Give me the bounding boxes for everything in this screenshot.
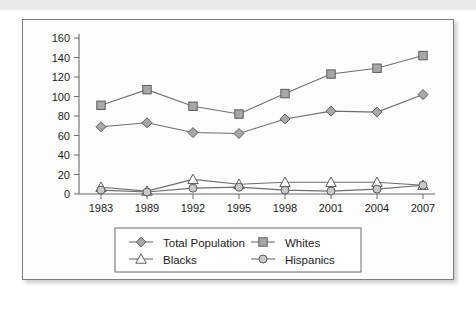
y-tick-label: 0 (64, 188, 70, 200)
square-marker (189, 102, 197, 110)
circle-marker (97, 186, 105, 194)
diamond-marker (326, 106, 336, 116)
diamond-marker (372, 107, 382, 117)
diamond-marker (142, 118, 152, 128)
y-tick-label: 160 (52, 32, 70, 44)
legend-item-label: Whites (285, 237, 320, 249)
line-chart: 0204060801001201401601983198919921995199… (23, 20, 453, 279)
x-tick-label: 2007 (411, 202, 435, 214)
circle-marker (235, 183, 243, 191)
y-tick-label: 40 (58, 149, 70, 161)
square-marker (419, 51, 427, 59)
series-total-population (96, 90, 428, 139)
chart-plot-area: 0204060801001201401601983198919921995199… (23, 20, 453, 279)
circle-marker (419, 181, 427, 189)
x-tick-label: 2001 (319, 202, 343, 214)
x-tick-group: 19831989199219951998200120042007 (89, 194, 435, 214)
y-tick-label: 120 (52, 71, 70, 83)
legend-item-whites[interactable]: Whites (251, 237, 320, 249)
square-marker (327, 70, 335, 78)
x-tick-label: 1995 (227, 202, 251, 214)
circle-marker (327, 187, 335, 195)
square-marker (235, 110, 243, 118)
circle-marker (281, 186, 289, 194)
diamond-marker (418, 90, 428, 100)
triangle-marker (188, 174, 198, 183)
x-tick-label: 1989 (135, 202, 159, 214)
y-tick-group: 020406080100120140160 (52, 32, 79, 200)
diamond-marker (188, 128, 198, 138)
y-tick-label: 60 (58, 130, 70, 142)
page-top-band-edge (0, 9, 476, 11)
circle-marker (189, 184, 197, 192)
x-tick-label: 1992 (181, 202, 205, 214)
x-tick-label: 1983 (89, 202, 113, 214)
y-tick-label: 80 (58, 110, 70, 122)
diamond-marker (96, 122, 106, 132)
x-tick-label: 1998 (273, 202, 297, 214)
circle-marker (259, 255, 267, 263)
y-tick-label: 140 (52, 52, 70, 64)
chart-axes (79, 34, 435, 194)
square-marker (143, 85, 151, 93)
diamond-marker (280, 114, 290, 124)
square-marker (281, 89, 289, 97)
legend-item-label: Blacks (163, 254, 197, 266)
page-top-band (0, 0, 476, 9)
legend-item-label: Hispanics (285, 254, 335, 266)
diamond-marker (234, 129, 244, 139)
square-marker (97, 101, 105, 109)
y-tick-label: 100 (52, 91, 70, 103)
square-marker (259, 238, 267, 246)
circle-marker (143, 188, 151, 196)
chart-legend: Total PopulationWhitesBlacksHispanics (115, 228, 361, 272)
y-tick-label: 20 (58, 169, 70, 181)
square-marker (373, 64, 381, 72)
chart-figure-frame: 0204060801001201401601983198919921995199… (22, 19, 454, 280)
legend-item-label: Total Population (163, 237, 245, 249)
circle-marker (373, 185, 381, 193)
x-tick-label: 2004 (365, 202, 389, 214)
